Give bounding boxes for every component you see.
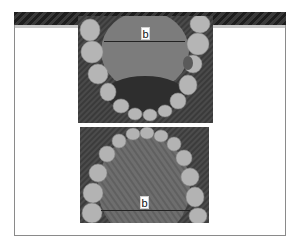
- mandibular-width-label: b: [141, 27, 150, 40]
- maxillary-width-line: [101, 210, 190, 211]
- maxillary-width-label: b: [140, 196, 149, 209]
- mandibular-width-line: [104, 41, 185, 42]
